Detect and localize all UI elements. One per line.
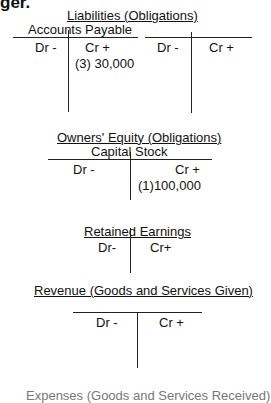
debit-label: Dr- [98,240,116,255]
t-account-vertical-line [130,152,131,200]
credit-label: Cr + [175,162,200,177]
debit-label: Dr - [96,315,118,330]
credit-entry: (1)100,000 [138,178,201,193]
t-account-vertical-line [191,32,192,113]
ledger-heading-fragment: ger. [0,0,30,11]
credit-label: Cr + [85,40,110,55]
debit-label: Dr - [157,40,179,55]
credit-entry: (3) 30,000 [75,56,134,71]
credit-label: Cr+ [150,240,171,255]
t-account-vertical-line [130,228,131,273]
credit-label: Cr + [159,315,184,330]
debit-label: Dr - [73,162,95,177]
t-account-vertical-line [68,30,69,112]
liabilities-title: Liabilities (Obligations) [67,8,198,23]
t-account-vertical-line [137,312,138,368]
debit-label: Dr - [35,40,57,55]
account-name: Retained Earnings [84,224,191,239]
t-account-horizontal-line [145,37,252,38]
expenses-title: Expenses (Goods and Services Received) [26,388,270,403]
t-account-horizontal-line [13,37,138,38]
owners-equity-title: Owners' Equity (Obligations) [57,130,221,145]
credit-label: Cr + [209,40,234,55]
revenue-title: Revenue (Goods and Services Given) [34,283,253,298]
account-name: Accounts Payable [28,22,132,37]
